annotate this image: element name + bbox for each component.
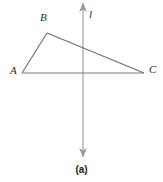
figure-canvas [0, 0, 163, 182]
figure-caption: (a) [0, 164, 163, 175]
geometry-figure: B A C l (a) [0, 0, 163, 182]
line-l-group [79, 2, 87, 158]
line-label-l: l [89, 9, 92, 20]
triangle-side-ab [22, 33, 47, 73]
vertex-label-c: C [149, 64, 156, 75]
vertex-label-a: A [10, 65, 17, 76]
vertex-label-b: B [40, 12, 47, 23]
triangle-side-bc [47, 33, 144, 73]
